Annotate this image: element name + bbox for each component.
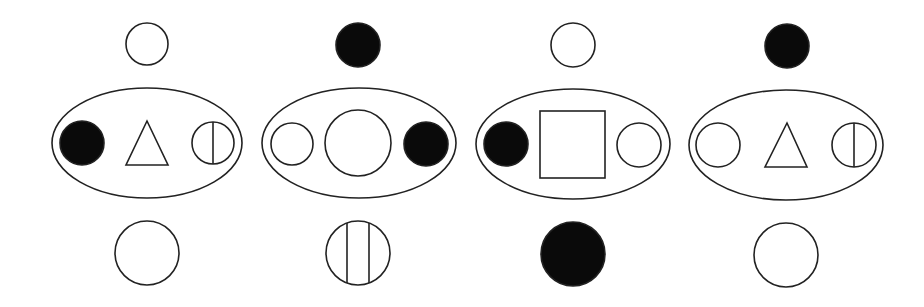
inner-1-hollow-circle-icon bbox=[696, 123, 740, 167]
panel-3 bbox=[476, 23, 670, 286]
top-filled-circle-icon bbox=[765, 24, 809, 68]
top-filled-circle-icon bbox=[336, 23, 380, 67]
bottom-hollow-circle-icon bbox=[754, 223, 818, 287]
inner-1-filled-circle-icon bbox=[60, 121, 104, 165]
top-hollow-circle-icon bbox=[126, 23, 168, 65]
bottom-hollow-circle-icon bbox=[326, 221, 390, 285]
puzzle-canvas bbox=[0, 0, 924, 307]
inner-3-filled-circle-icon bbox=[404, 122, 448, 166]
bottom-filled-circle-icon bbox=[541, 222, 605, 286]
panel-2 bbox=[262, 23, 456, 285]
puzzle-figure-row bbox=[0, 0, 924, 307]
inner-2-hollow-circle-icon bbox=[325, 110, 391, 176]
inner-3-hollow-circle-icon bbox=[617, 123, 661, 167]
inner-2-triangle-icon bbox=[126, 121, 168, 165]
top-hollow-circle-icon bbox=[551, 23, 595, 67]
panel-4 bbox=[689, 24, 883, 287]
inner-1-hollow-circle-icon bbox=[271, 123, 313, 165]
panel-1 bbox=[52, 23, 242, 285]
inner-2-triangle-icon bbox=[765, 123, 807, 167]
bottom-hollow-circle-icon bbox=[115, 221, 179, 285]
inner-1-filled-circle-icon bbox=[484, 122, 528, 166]
inner-2-square-icon bbox=[540, 111, 605, 178]
